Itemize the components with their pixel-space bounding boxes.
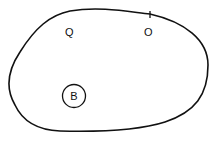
diagram-canvas: Q O B (0, 0, 215, 142)
label-o: O (144, 26, 153, 38)
region-boundary (9, 9, 208, 131)
label-q: Q (65, 26, 74, 38)
label-b: B (70, 90, 77, 102)
